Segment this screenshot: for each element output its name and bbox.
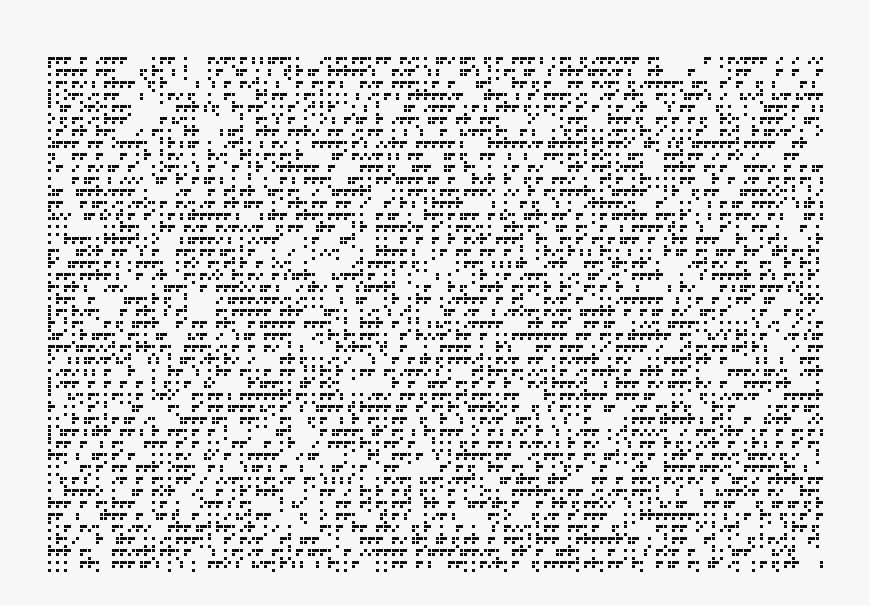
pixel-pattern-canvas xyxy=(0,0,870,606)
